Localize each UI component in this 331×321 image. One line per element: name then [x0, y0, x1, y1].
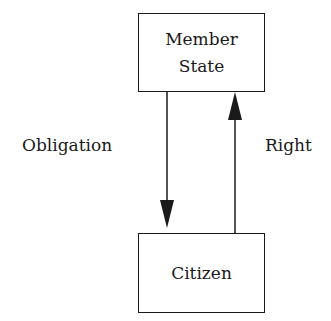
obligation-arrow — [160, 92, 174, 228]
right-label: Right — [265, 135, 312, 155]
arrows — [0, 0, 331, 321]
obligation-label: Obligation — [22, 135, 112, 155]
right-arrow — [228, 92, 242, 233]
